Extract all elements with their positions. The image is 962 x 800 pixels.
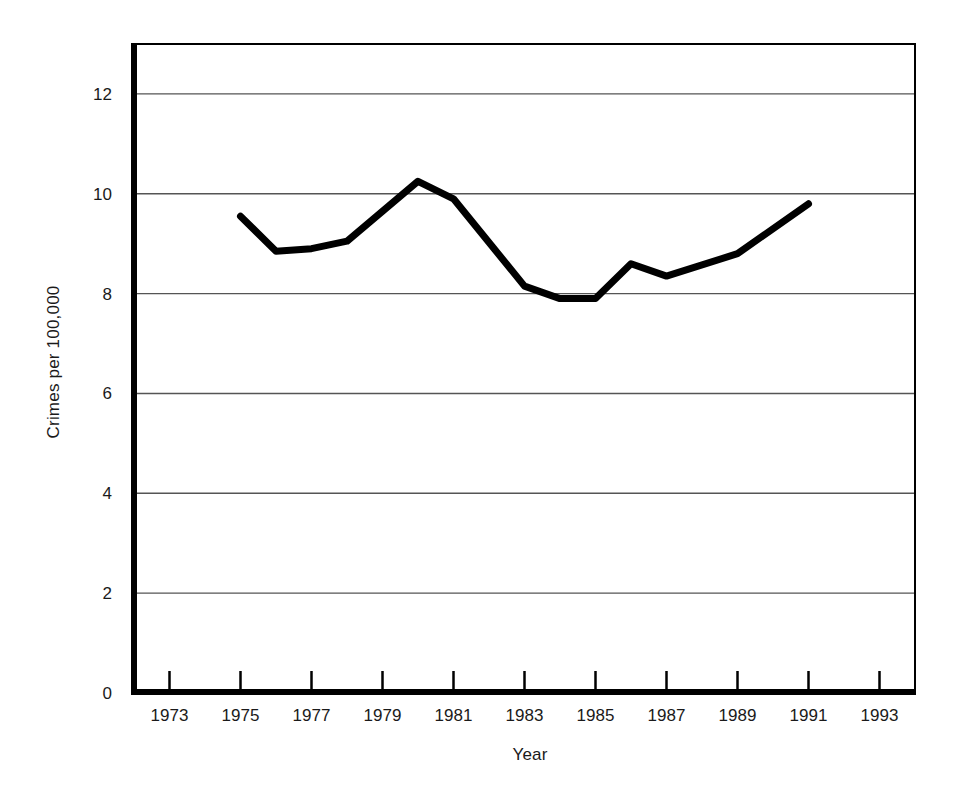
x-tick-label: 1991 [790,706,828,725]
x-tick-label: 1981 [435,706,473,725]
chart-figure: Crimes per 100,000 Year 024681012 197319… [0,0,962,800]
x-tick-label: 1983 [506,706,544,725]
x-tick-label: 1979 [364,706,402,725]
gridlines [134,94,915,593]
x-tick-label: 1989 [719,706,757,725]
x-axis-tick-labels: 1973197519771979198119831985198719891991… [151,706,899,725]
y-tick-label: 2 [103,584,112,603]
y-tick-label: 0 [103,684,112,703]
y-tick-label: 10 [93,185,112,204]
x-axis-ticks [170,671,880,691]
y-tick-label: 6 [103,384,112,403]
plot-frame [133,44,915,693]
x-tick-label: 1977 [293,706,331,725]
y-axis-tick-labels: 024681012 [93,85,112,703]
line-chart-plot: 024681012 197319751977197919811983198519… [0,0,962,800]
x-tick-label: 1985 [577,706,615,725]
data-series-line [241,181,809,298]
x-tick-label: 1993 [861,706,899,725]
x-tick-label: 1987 [648,706,686,725]
y-tick-label: 4 [103,484,112,503]
y-tick-label: 12 [93,85,112,104]
x-tick-label: 1975 [222,706,260,725]
x-tick-label: 1973 [151,706,189,725]
y-tick-label: 8 [103,285,112,304]
